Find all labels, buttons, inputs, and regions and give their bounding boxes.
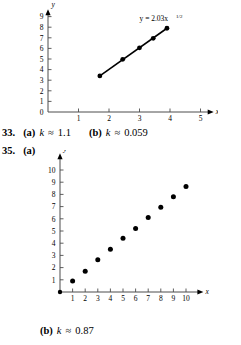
answer-33-part-a-variable: k (39, 127, 44, 138)
equation-exponent: 1/2 (176, 14, 183, 19)
figure-chart-35a: 1234567891012345678910yx (38, 150, 213, 315)
y-tick-label: 6 (52, 215, 56, 224)
x-tick-label: 3 (96, 294, 100, 303)
answer-33-number: 33. (2, 127, 15, 138)
fit-line (100, 28, 167, 76)
y-tick-label: 10 (48, 166, 56, 175)
x-axis-arrow (208, 109, 214, 114)
y-tick-label: 8 (40, 23, 44, 32)
data-point (137, 45, 142, 50)
x-tick-label: 2 (107, 114, 111, 123)
answer-35-part-b-variable: k (57, 325, 62, 336)
y-tick-label: 7 (40, 34, 44, 43)
answer-33-part-b-label: (b) (89, 127, 102, 138)
data-point (158, 205, 163, 210)
y-tick-label: 5 (52, 227, 56, 236)
answer-line-35b: (b)k≈0.87 (40, 326, 94, 337)
answer-33-part-b-value: 0.059 (124, 127, 148, 138)
data-point (151, 36, 156, 41)
y-tick-label: 5 (40, 55, 44, 64)
y-tick-label: 7 (52, 202, 56, 211)
x-tick-label: 2 (83, 294, 87, 303)
answer-line-35a: 35.(a) (2, 146, 35, 157)
data-point (58, 290, 62, 294)
x-tick-label: 8 (159, 294, 163, 303)
y-tick-label: 6 (40, 44, 44, 53)
data-point (184, 184, 189, 189)
x-tick-label: 4 (168, 114, 172, 123)
data-point (108, 247, 113, 252)
x-tick-label: 4 (109, 294, 113, 303)
y-tick-label: 4 (40, 65, 44, 74)
equation-annotation: y = 2.03x1/2 (140, 14, 183, 23)
data-point (121, 236, 126, 241)
data-point (83, 269, 88, 274)
y-axis-label: y (63, 150, 68, 153)
data-point (95, 257, 100, 262)
equation-text: y = 2.03x (140, 14, 169, 23)
data-point (146, 215, 151, 220)
data-point (165, 26, 170, 31)
y-tick-label: 3 (52, 251, 56, 260)
answer-33-part-b-relation: ≈ (114, 127, 120, 138)
x-tick-label: 1 (71, 294, 75, 303)
y-axis-arrow (57, 153, 62, 159)
answer-key-page: 012345678912345yx1/2y = 2.03x1/2 33.(a)k… (0, 0, 241, 345)
y-tick-label: 1 (40, 97, 44, 106)
y-tick-label: 8 (52, 190, 56, 199)
answer-35-part-b-relation: ≈ (66, 325, 72, 336)
y-tick-label: 1 (52, 276, 56, 285)
figure-chart-33b: 012345678912345yx1/2y = 2.03x1/2 (28, 2, 218, 128)
y-tick-label: 0 (40, 108, 44, 117)
y-tick-label: 9 (52, 178, 56, 187)
answer-33-part-a-label: (a) (23, 127, 35, 138)
x-axis-arrow (197, 289, 203, 294)
data-point (171, 194, 176, 199)
answer-35-part-a-label: (a) (23, 145, 35, 156)
answer-35-number: 35. (2, 145, 15, 156)
x-tick-label: 7 (146, 294, 150, 303)
y-tick-label: 2 (40, 87, 44, 96)
x-tick-label: 1 (77, 114, 81, 123)
answer-35-part-b-value: 0.87 (75, 325, 93, 336)
x-tick-label: 10 (182, 294, 190, 303)
x-tick-label: 5 (199, 114, 203, 123)
data-point (120, 57, 125, 62)
y-tick-label: 4 (52, 239, 56, 248)
answer-line-33: 33.(a)k≈1.1(b)k≈0.059 (2, 128, 148, 139)
x-tick-label: 6 (134, 294, 138, 303)
chart-33b-canvas: 012345678912345yx1/2y = 2.03x1/2 (28, 2, 218, 128)
y-axis-label: y (51, 2, 56, 9)
data-point (133, 226, 138, 231)
answer-33-part-a-value: 1.1 (58, 127, 71, 138)
y-tick-label: 3 (40, 76, 44, 85)
answer-33-part-b-variable: k (106, 127, 111, 138)
y-tick-label: 2 (52, 263, 56, 272)
x-tick-label: 3 (138, 114, 142, 123)
x-axis-label: x (215, 107, 218, 116)
answer-33-part-a-relation: ≈ (48, 127, 54, 138)
y-axis-arrow (45, 9, 50, 15)
x-tick-label: 5 (121, 294, 125, 303)
data-point (97, 74, 102, 79)
data-point (70, 279, 75, 284)
y-tick-label: 9 (40, 12, 44, 21)
chart-35a-canvas: 1234567891012345678910yx (38, 150, 213, 315)
answer-35-part-b-label: (b) (40, 325, 53, 336)
x-tick-label: 9 (172, 294, 176, 303)
x-axis-label: x (204, 287, 209, 296)
